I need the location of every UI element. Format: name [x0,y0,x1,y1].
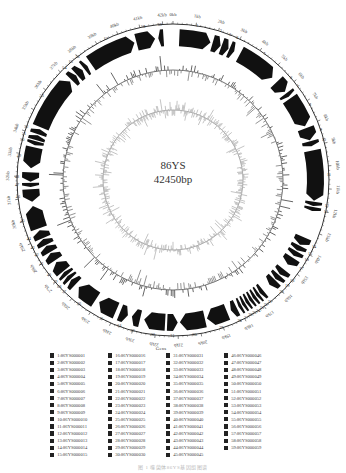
legend-item: 35:86YS000035 [166,380,218,387]
orf-arrow [144,312,165,330]
legend-swatch [166,375,170,379]
orf-number-label: 44 [27,236,32,241]
legend-item: 20:86YS000020 [108,380,160,387]
legend-label: 29:86YS000029 [115,445,145,450]
legend-swatch [108,382,112,386]
legend-label: 53:86YS000053 [231,403,261,408]
orf-number-label: 57 [104,36,108,41]
legend-label: 55:86YS000055 [231,417,261,422]
legend-swatch [166,431,170,435]
orf-number-label: 1 [196,23,198,28]
orf-number-label: 19 [285,283,289,288]
kb-tick-label: 27kb [43,283,53,294]
orf-number-label: 36 [77,301,81,306]
orf-arrow [22,189,40,202]
orf-number-label: 55 [69,59,73,64]
legend-swatch [50,382,54,386]
orf-arrow [219,38,229,55]
orf-number-label: 29 [219,325,223,330]
orf-arrow [305,200,322,205]
orf-number-label: 38 [57,284,61,289]
legend-swatch [108,446,112,450]
legend-label: 22:86YS000022 [115,396,145,401]
legend-label: 9:86YS000009 [57,410,85,415]
orf-number-label: 49 [17,153,21,158]
legend-label: 13:86YS000013 [57,438,87,443]
legend-label: 32:86YS000032 [173,360,203,365]
legend-label: 26:86YS000026 [115,424,145,429]
legend-item: 12:86YS000012 [50,430,102,437]
orf-arrow [304,205,321,211]
kb-tick-label: 14kb [313,254,322,265]
legend-label: 11:86YS000011 [57,424,87,429]
legend-swatch [224,439,228,443]
kb-tick-label: 29kb [17,242,26,253]
legend-label: 27:86YS000027 [115,431,145,436]
legend-item: 10:86YS000010 [50,416,102,423]
legend-label: 6:86YS000006 [57,389,85,394]
orf-arrow [167,314,178,331]
legend-swatch [50,403,54,407]
legend-swatch [224,431,228,435]
kb-tick-label: 33kb [7,146,14,157]
orf-number-label: 46 [16,194,20,199]
orf-legend: 1:86YS00000116:86YS00001631:86YS00003146… [50,352,276,458]
orf-number-label: 48 [15,174,19,179]
legend-label: 57:86YS000057 [231,431,261,436]
legend-label: 34:86YS000034 [173,374,203,379]
legend-label: 39:86YS000039 [173,410,203,415]
legend-swatch [166,403,170,407]
legend-label: 38:86YS000038 [173,403,203,408]
legend-label: 43:86YS000043 [173,438,203,443]
legend-label: 46:86YS000046 [231,353,261,358]
legend-label: 2:86YS000002 [57,360,85,365]
kb-tick-label: 12kb [331,209,338,220]
legend-label: 18:86YS000018 [115,367,145,372]
legend-item: 50:86YS000050 [224,380,276,387]
legend-label: 44:86YS000044 [173,445,203,450]
orf-arrow [298,125,316,140]
legend-swatch [224,361,228,365]
orf-arrow [302,139,319,146]
kb-tick-label: 23kb [124,336,135,343]
kb-tick-label: 5kb [280,54,289,63]
kb-tick-label: 38kb [67,44,78,54]
legend-item: 26:86YS000026 [108,423,160,430]
kb-tick-label: 15kb [300,275,310,286]
legend-swatch [166,439,170,443]
legend-swatch [50,389,54,393]
kb-tick-label: 36kb [33,79,43,90]
orf-number-label: 2 [220,28,222,33]
kb-tick-label: 34kb [12,122,20,133]
orf-number-label: 56 [75,54,79,59]
kb-tick-label: 16kb [283,293,294,303]
legend-item: 38:86YS000038 [166,402,218,409]
legend-label: 52:86YS000052 [231,396,261,401]
legend-item: 34:86YS000034 [166,373,218,380]
legend-swatch [50,446,54,450]
legend-item: 1:86YS000001 [50,352,102,359]
legend-label: 30:86YS000030 [115,452,145,457]
kb-tick-label: 0kb [170,12,178,17]
legend-item: 31:86YS000031 [166,352,218,359]
legend-label: 37:86YS000037 [173,396,203,401]
orf-number-label: 47 [15,182,19,187]
kb-tick-label: 31kb [6,195,12,205]
legend-swatch [224,424,228,428]
kb-tick-label: 25kb [79,315,90,324]
legend-swatch [166,424,170,428]
legend-swatch [224,353,228,357]
genes-ring-label: Gens [156,346,166,351]
orf-number-label: 14 [312,244,317,249]
orf-number-label: 23 [260,305,264,310]
orf-arrow [294,234,311,245]
kb-tick-label: 32kb [5,171,10,181]
kb-tick-label: 8kb [323,113,330,122]
legend-label: 58:86YS000058 [231,438,261,443]
orf-number-label: 17 [299,266,303,271]
orf-arrow [26,206,47,231]
orf-number-label: 12 [325,203,329,208]
legend-item: 21:86YS000021 [108,387,160,394]
legend-item: 19:86YS000019 [108,373,160,380]
orf-number-label: 58 [141,24,145,29]
